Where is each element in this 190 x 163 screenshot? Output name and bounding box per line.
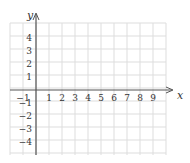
x-tick-label: 7 [124,93,130,103]
y-tick-label: 3 [26,46,32,56]
y-tick-label: −3 [19,124,33,134]
y-tick-label: −1 [19,98,32,108]
coordinate-grid: y x −1123456789 4321−1−2−3−4 [0,0,190,163]
x-tick-label: 8 [137,93,143,103]
x-tick-label: 3 [72,93,78,103]
y-tick-label: 1 [26,72,32,82]
x-tick-label: 4 [85,93,91,103]
x-tick-label: 1 [46,93,52,103]
x-tick-label: 2 [59,93,65,103]
grid-lines [10,23,166,155]
y-tick-label: −4 [19,137,33,147]
y-tick-label: 2 [26,59,32,69]
x-tick-label: 5 [98,93,104,103]
x-axis-label: x [177,89,184,102]
y-axis-label: y [26,9,34,22]
x-tick-label: 6 [111,93,117,103]
y-tick-label: −2 [19,111,32,121]
x-tick-label: 9 [150,93,156,103]
axes [10,13,173,155]
y-tick-label: 4 [26,33,32,43]
